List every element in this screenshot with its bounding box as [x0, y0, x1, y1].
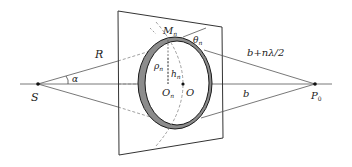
label-alpha: α [72, 74, 78, 84]
point-s [36, 82, 40, 86]
label-theta-n: θn [193, 35, 202, 46]
label-m-n: Mn [162, 25, 177, 37]
ray-s-lower [38, 84, 118, 107]
label-s: S [31, 91, 39, 104]
fresnel-zone-diagram: S R α Mn θn ρn hn On O b+nλ/2 b P0 [0, 0, 352, 167]
point-p0 [313, 82, 317, 86]
ray-p0-lower [201, 84, 315, 118]
label-o: O [186, 87, 194, 98]
label-p0: P0 [310, 90, 322, 102]
label-path-length: b+nλ/2 [247, 47, 284, 58]
tick-top [150, 28, 156, 34]
label-r: R [94, 48, 103, 61]
zone-ring-inner [145, 41, 209, 125]
alpha-arc [66, 76, 68, 84]
label-b: b [243, 88, 249, 99]
point-o [181, 82, 184, 85]
